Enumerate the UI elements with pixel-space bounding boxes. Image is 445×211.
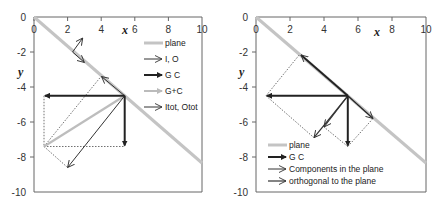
x-tick-10: 10 bbox=[196, 24, 208, 35]
y-tick-m10: -10 bbox=[12, 187, 27, 198]
x-tick-10: 10 bbox=[420, 24, 432, 35]
y-tick-0: 0 bbox=[20, 12, 26, 23]
x-tick-6: 6 bbox=[355, 24, 361, 35]
x-tick-4: 4 bbox=[321, 24, 327, 35]
legend-orthogonal: orthogonal to the plane bbox=[289, 176, 376, 186]
left-legend: plane I, O G C G+C Itot, Otot bbox=[144, 38, 198, 112]
y-tick-m8: -8 bbox=[17, 152, 26, 163]
y-tick-0: 0 bbox=[242, 12, 248, 23]
i-arrow bbox=[73, 38, 83, 52]
x-tick-8: 8 bbox=[389, 24, 395, 35]
y-tick-m6: -6 bbox=[239, 117, 248, 128]
x-tick-6: 6 bbox=[132, 24, 138, 35]
legend-io: I, O bbox=[165, 54, 179, 64]
y-axis-label: y bbox=[16, 65, 24, 79]
y-tick-m6: -6 bbox=[17, 117, 26, 128]
legend-in-plane: Components in the plane bbox=[289, 164, 384, 174]
y-tick-m2: -2 bbox=[17, 47, 26, 58]
x-tick-8: 8 bbox=[166, 24, 172, 35]
g-plus-c-vector bbox=[44, 96, 125, 147]
construction-lines bbox=[266, 54, 373, 147]
y-axis-label: y bbox=[237, 65, 245, 79]
legend-g-plus-c: G+C bbox=[165, 86, 183, 96]
x-tick-0: 0 bbox=[31, 24, 37, 35]
x-axis-label: x bbox=[373, 25, 380, 39]
legend-gc: G C bbox=[165, 70, 180, 80]
orthogonal-component-2 bbox=[324, 96, 348, 127]
left-chart: 0 2 4 6 8 10 x 0 -2 -4 -6 -8 -10 y bbox=[12, 12, 208, 198]
x-tick-0: 0 bbox=[253, 24, 259, 35]
legend-plane: plane bbox=[289, 140, 310, 150]
right-chart: 0 2 4 6 8 10 x 0 -2 -4 -6 -8 -10 y bbox=[234, 12, 432, 198]
y-tick-m8: -8 bbox=[239, 152, 248, 163]
x-tick-4: 4 bbox=[98, 24, 104, 35]
itot-arrow bbox=[102, 77, 125, 96]
legend-gc: G C bbox=[289, 152, 304, 162]
figure: 0 2 4 6 8 10 x 0 -2 -4 -6 -8 -10 y bbox=[0, 0, 445, 211]
o-arrow bbox=[73, 52, 85, 63]
x-tick-2: 2 bbox=[287, 24, 293, 35]
y-tick-m4: -4 bbox=[17, 82, 26, 93]
in-plane-component-down bbox=[348, 96, 373, 119]
in-plane-component-up bbox=[301, 55, 348, 96]
y-tick-m2: -2 bbox=[239, 47, 248, 58]
y-tick-m10: -10 bbox=[234, 187, 249, 198]
x-tick-2: 2 bbox=[65, 24, 71, 35]
x-axis-label: x bbox=[121, 23, 128, 37]
right-legend: plane G C Components in the plane orthog… bbox=[268, 140, 384, 186]
y-tick-m4: -4 bbox=[239, 82, 248, 93]
legend-plane: plane bbox=[165, 38, 186, 48]
legend-itot-otot: Itot, Otot bbox=[165, 102, 198, 112]
